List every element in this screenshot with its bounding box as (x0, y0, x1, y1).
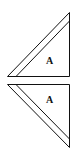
diagram-canvas: A A (0, 0, 74, 159)
bottom-triangle (8, 85, 70, 148)
top-triangle (8, 13, 70, 77)
top-triangle-label: A (46, 55, 54, 66)
top-triangle-outline (8, 13, 70, 77)
bottom-triangle-outline (8, 85, 70, 148)
bottom-triangle-label: A (46, 94, 54, 105)
bottom-triangle-inner-line (16, 85, 70, 140)
top-triangle-inner-line (16, 21, 70, 77)
